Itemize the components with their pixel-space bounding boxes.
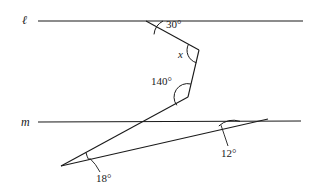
segment-140-to-vertex [61, 97, 188, 166]
angle-label-140: 140° [151, 76, 172, 87]
label-line-ell: ℓ [22, 14, 27, 26]
angle-label-x: x [178, 49, 183, 60]
segment-vertex-to-m [61, 119, 268, 166]
line-m [38, 121, 301, 122]
angle-label-18: 18° [96, 173, 111, 184]
angle-label-30: 30° [166, 19, 181, 30]
figure-canvas [0, 0, 315, 195]
leader-18 [90, 158, 101, 172]
arc-x [187, 44, 196, 63]
label-line-m: m [21, 116, 30, 128]
angle-label-12: 12° [221, 148, 236, 159]
segment-x-to-140 [188, 50, 199, 97]
arc-18 [86, 153, 89, 160]
geometry-figure: ℓ m 30° x 140° 18° 12° [0, 0, 315, 195]
